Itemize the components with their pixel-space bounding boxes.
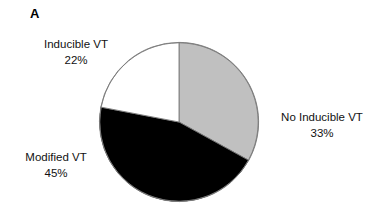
- slice-label-modified-vt-percent: 45%: [10, 166, 102, 181]
- panel-label: A: [30, 7, 40, 21]
- pie-chart-figure: A Inducible VT 22% No Inducible VT 33% M…: [0, 0, 391, 223]
- slice-label-inducible-vt-name: Inducible VT: [28, 37, 124, 52]
- slice-label-no-inducible-vt-percent: 33%: [266, 126, 378, 141]
- slice-label-inducible-vt-percent: 22%: [28, 53, 124, 68]
- slice-label-no-inducible-vt-name: No Inducible VT: [266, 110, 378, 125]
- slice-label-inducible-vt: Inducible VT 22%: [28, 37, 124, 67]
- slice-label-modified-vt-name: Modified VT: [10, 150, 102, 165]
- slice-label-no-inducible-vt: No Inducible VT 33%: [266, 110, 378, 140]
- slice-label-modified-vt: Modified VT 45%: [10, 150, 102, 180]
